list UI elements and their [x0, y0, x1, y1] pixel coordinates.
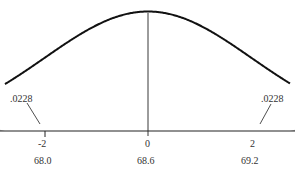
- right-area-label: .0228: [261, 94, 284, 104]
- left-area-label: .0228: [10, 94, 33, 104]
- right-area-pointer: [260, 104, 271, 124]
- z-tick-right: 2: [250, 139, 255, 149]
- normal-curve: [5, 12, 290, 85]
- value-tick-center: 68.6: [137, 156, 155, 166]
- z-tick-left: -2: [38, 139, 46, 149]
- value-tick-left: 68.0: [34, 156, 52, 166]
- left-area-pointer: [27, 103, 40, 124]
- z-tick-center: 0: [145, 139, 150, 149]
- left-tail-shade: [0, 114, 5, 131]
- right-tail-shade: [290, 114, 295, 131]
- value-tick-right: 69.2: [241, 156, 259, 166]
